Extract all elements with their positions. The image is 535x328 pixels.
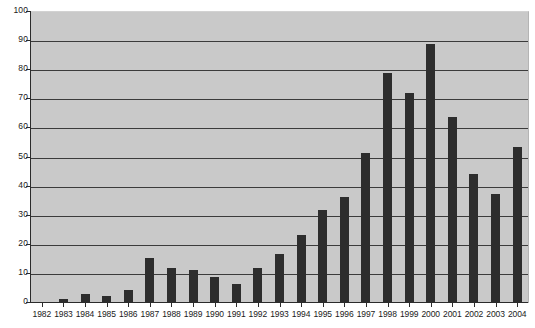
x-tick-mark: [193, 303, 194, 307]
bar: [448, 117, 457, 303]
y-tick-label: 60: [2, 122, 28, 131]
y-tick-label: 10: [2, 268, 28, 277]
bar: [361, 153, 370, 303]
bar: [513, 147, 522, 303]
x-tick-label: 1986: [117, 309, 139, 319]
bar: [167, 268, 176, 303]
x-tick-label: 1993: [269, 309, 291, 319]
y-tick-mark: [26, 244, 31, 245]
bar-chart: 1009080706050403020100 19821983198419851…: [0, 0, 535, 328]
y-tick-label: 30: [2, 210, 28, 219]
bar: [469, 174, 478, 303]
x-tick-label: 1990: [204, 309, 226, 319]
x-tick-label: 2002: [463, 309, 485, 319]
bar: [318, 210, 327, 303]
x-tick-mark: [474, 303, 475, 307]
y-tick-label: 40: [2, 181, 28, 190]
x-tick-label: 2003: [485, 309, 507, 319]
x-tick-mark: [236, 303, 237, 307]
y-tick-mark: [26, 302, 31, 303]
plot-area: [31, 11, 529, 303]
x-tick-label: 1984: [74, 309, 96, 319]
x-tick-mark: [280, 303, 281, 307]
x-tick-label: 1999: [398, 309, 420, 319]
x-tick-mark: [452, 303, 453, 307]
x-tick-label: 2000: [420, 309, 442, 319]
y-tick-mark: [26, 11, 31, 12]
y-axis-label-group: 1009080706050403020100: [0, 0, 28, 328]
bar: [405, 93, 414, 303]
y-tick-mark: [26, 40, 31, 41]
x-tick-label: 1988: [161, 309, 183, 319]
y-tick-mark: [26, 98, 31, 99]
x-tick-label: 1987: [139, 309, 161, 319]
bar: [340, 197, 349, 303]
y-tick-label: 90: [2, 35, 28, 44]
y-tick-label: 70: [2, 93, 28, 102]
bar: [275, 254, 284, 303]
x-tick-mark: [42, 303, 43, 307]
bars-group: [31, 12, 528, 303]
y-tick-mark: [26, 127, 31, 128]
x-tick-label: 1992: [247, 309, 269, 319]
x-tick-mark: [128, 303, 129, 307]
y-tick-mark: [26, 215, 31, 216]
x-tick-label: 2004: [506, 309, 528, 319]
bar: [491, 194, 500, 303]
bar: [189, 270, 198, 303]
bar: [232, 284, 241, 303]
x-tick-mark: [150, 303, 151, 307]
x-tick-mark: [344, 303, 345, 307]
y-tick-label: 100: [2, 6, 28, 15]
x-tick-mark: [258, 303, 259, 307]
y-tick-label: 0: [2, 297, 28, 306]
x-tick-mark: [85, 303, 86, 307]
x-tick-label: 1991: [225, 309, 247, 319]
x-tick-mark: [301, 303, 302, 307]
y-tick-label: 50: [2, 152, 28, 161]
x-tick-mark: [409, 303, 410, 307]
x-tick-label: 1998: [377, 309, 399, 319]
y-tick-label: 80: [2, 64, 28, 73]
x-axis-label-group: 1982198319841985198619871988198919901991…: [0, 309, 535, 323]
x-tick-mark: [323, 303, 324, 307]
bar: [383, 73, 392, 303]
x-tick-mark: [388, 303, 389, 307]
x-tick-mark: [215, 303, 216, 307]
x-tick-mark: [107, 303, 108, 307]
y-tick-mark: [26, 157, 31, 158]
x-tick-label: 1994: [290, 309, 312, 319]
x-tick-label: 1989: [182, 309, 204, 319]
x-tick-mark: [63, 303, 64, 307]
x-tick-mark: [366, 303, 367, 307]
x-tick-mark: [496, 303, 497, 307]
x-tick-label: 1985: [96, 309, 118, 319]
y-tick-mark: [26, 273, 31, 274]
x-tick-label: 2001: [442, 309, 464, 319]
x-axis-line: [30, 302, 528, 303]
x-tick-label: 1995: [312, 309, 334, 319]
x-tick-mark: [431, 303, 432, 307]
x-tick-label: 1983: [53, 309, 75, 319]
y-tick-mark: [26, 69, 31, 70]
bar: [210, 277, 219, 303]
x-tick-label: 1997: [355, 309, 377, 319]
x-tick-label: 1996: [334, 309, 356, 319]
x-tick-label: 1982: [31, 309, 53, 319]
bar: [145, 258, 154, 303]
x-tick-mark: [171, 303, 172, 307]
y-tick-label: 20: [2, 239, 28, 248]
y-tick-mark: [26, 186, 31, 187]
x-tick-mark: [517, 303, 518, 307]
bar: [253, 268, 262, 303]
bar: [297, 235, 306, 303]
bar: [426, 44, 435, 303]
